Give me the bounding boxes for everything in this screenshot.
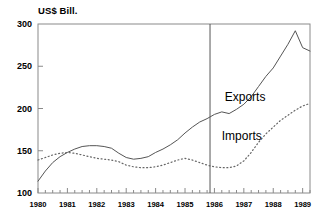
y-tick-label: 250	[2, 61, 32, 71]
y-tick-label: 200	[2, 104, 32, 114]
plot-frame	[38, 24, 310, 193]
y-axis-unit-label: US$ Bill.	[38, 5, 77, 16]
plot-border	[38, 24, 310, 193]
series-label-imports: Imports	[222, 129, 262, 143]
series-line-imports	[38, 103, 310, 167]
chart-canvas	[0, 0, 326, 224]
y-tick-label: 150	[2, 146, 32, 156]
exports-imports-line-chart: US$ Bill. 100150200250300 19801981198219…	[0, 0, 326, 224]
y-tick-label: 300	[2, 19, 32, 29]
data-series-group	[38, 31, 310, 181]
y-axis-tick-marks	[38, 66, 43, 151]
x-axis-tick-marks	[38, 188, 310, 193]
series-line-exports	[38, 31, 310, 181]
y-tick-label: 100	[2, 188, 32, 198]
series-label-exports: Exports	[225, 90, 266, 104]
x-tick-label: 1989	[286, 200, 320, 209]
